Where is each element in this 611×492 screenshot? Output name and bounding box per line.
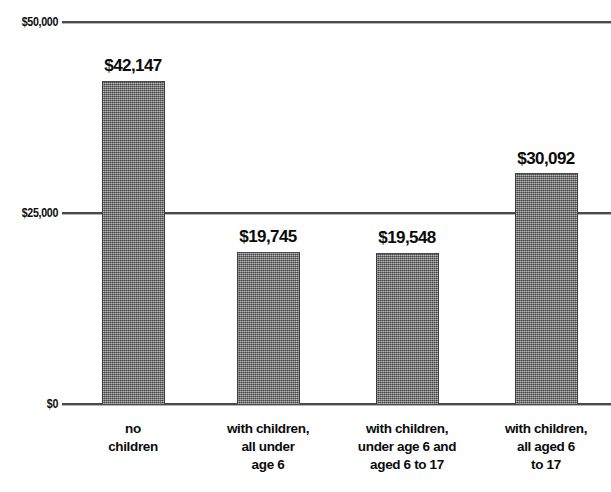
x-axis-label-all-aged-6-to-17: with children, all aged 6 to 17	[471, 420, 611, 474]
bar-value-label: $42,147	[63, 56, 203, 76]
bar-value-label: $19,745	[198, 227, 338, 247]
bar-chart: $50,000 $25,000 $0 $42,147 $19,745 $19,5…	[0, 0, 611, 492]
x-axis-label-all-under-6: with children, all under age 6	[193, 420, 343, 474]
x-axis-label-under-6-and-6-to-17: with children, under age 6 and aged 6 to…	[332, 420, 482, 474]
bar-value-label: $30,092	[476, 149, 611, 169]
bar-rect[interactable]	[102, 81, 165, 404]
bar-rect[interactable]	[376, 253, 439, 404]
bar-rect[interactable]	[515, 173, 578, 404]
x-axis-label-no-children: no children	[58, 420, 208, 456]
plot-area: $42,147 $19,745 $19,548 $30,092	[0, 0, 611, 492]
bar-rect[interactable]	[237, 252, 300, 404]
bar-value-label: $19,548	[337, 228, 477, 248]
